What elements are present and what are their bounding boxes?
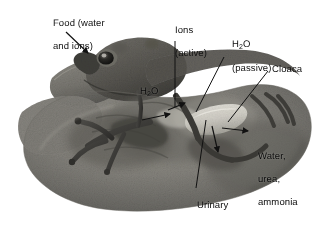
label-ions-active: Ions (active) bbox=[164, 13, 207, 71]
label-urinary-bladder: Urinary bladder bbox=[186, 188, 229, 224]
label-h2o-passive: H2O (passive) bbox=[221, 27, 271, 86]
label-h2o-passive-line2: (passive) bbox=[232, 63, 271, 74]
h2o-center-o: O bbox=[151, 86, 159, 97]
limb-toe-tip bbox=[104, 169, 110, 175]
label-waste-line3: ammonia bbox=[258, 197, 298, 208]
h2o-passive-h: H bbox=[232, 39, 239, 50]
h2o-center-h: H bbox=[140, 86, 147, 97]
h2o-passive-sub: 2 bbox=[239, 44, 243, 51]
h2o-passive-o: O bbox=[243, 39, 251, 50]
label-waste-line2: urea, bbox=[258, 174, 280, 185]
figure-root: Food (water and ions) Ions (active) H2O … bbox=[0, 0, 323, 224]
label-food-line1: Food (water bbox=[53, 18, 105, 29]
label-bladder-line2: bladder bbox=[197, 223, 229, 225]
label-food-water-ions: Food (water and ions) bbox=[42, 6, 105, 64]
label-bladder-line1: Urinary bbox=[197, 200, 228, 211]
label-water-urea-ammonia: Water, urea, ammonia bbox=[247, 139, 298, 220]
label-cloaca: Cloaca bbox=[272, 64, 302, 76]
label-ions-line1: Ions bbox=[175, 25, 193, 36]
label-h2o-passive-formula: H2O bbox=[232, 39, 250, 50]
limb-toe-tip bbox=[69, 159, 75, 165]
label-ions-line2: (active) bbox=[175, 48, 207, 59]
label-h2o-center: H2O bbox=[140, 86, 158, 99]
label-food-line2: and ions) bbox=[53, 41, 93, 52]
h2o-center-sub: 2 bbox=[147, 91, 151, 98]
label-waste-line1: Water, bbox=[258, 151, 286, 162]
